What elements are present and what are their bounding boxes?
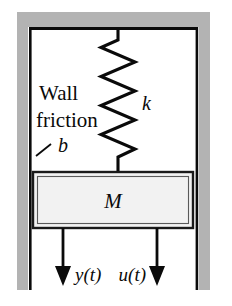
mass-label: M: [103, 189, 123, 213]
damping-label: b: [58, 134, 68, 156]
right-wall-inner-line: [196, 27, 199, 290]
spring-label: k: [142, 92, 152, 114]
input-arrow-group: u(t): [119, 228, 165, 286]
input-arrow-head: [149, 266, 165, 286]
right-wall-band: [199, 27, 210, 290]
input-label: u(t): [119, 264, 146, 286]
damping-label-group: b: [36, 134, 68, 156]
ceiling-band: [17, 12, 210, 27]
mass-block: M: [33, 172, 193, 228]
wall-friction-label-line2: friction: [36, 108, 98, 132]
mechanical-system-diagram: M y(t) u(t) Wall friction b k: [0, 0, 232, 306]
left-wall-inner-line: [29, 27, 32, 290]
wall-inner-frame: [29, 27, 198, 290]
left-wall-band: [17, 27, 28, 290]
damping-leader-line: [36, 144, 51, 156]
output-label: y(t): [73, 264, 101, 286]
wall-friction-label-line1: Wall: [39, 81, 78, 105]
ceiling-inner-line: [29, 27, 198, 30]
spring-zigzag-path: [101, 30, 135, 172]
spring: [101, 30, 135, 172]
output-arrow-group: y(t): [55, 228, 101, 286]
diagram-canvas: M y(t) u(t) Wall friction b k: [0, 0, 232, 306]
output-arrow-head: [55, 266, 71, 286]
